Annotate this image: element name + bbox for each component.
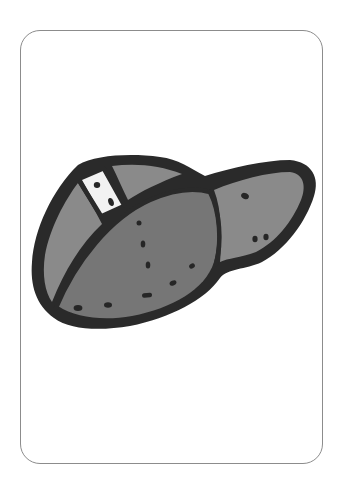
cap-brim [214,172,304,262]
flashcard-stage: baseball cap [0,0,346,481]
baseball-cap-icon [0,0,346,481]
